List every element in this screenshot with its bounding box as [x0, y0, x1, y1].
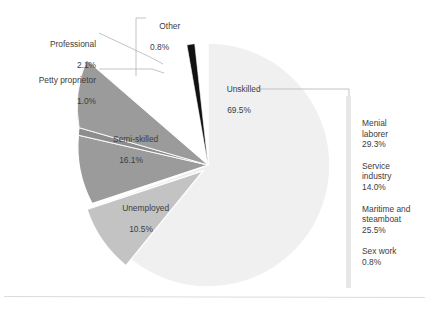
breakdown-item-maritime-and-steamboat: Maritime and steamboat 25.5%	[362, 204, 428, 236]
breakdown-item-sex-work: Sex work 0.8%	[362, 246, 428, 267]
slice-label-unemployed-name: Unemployed	[122, 203, 169, 213]
leader-line-other	[136, 18, 146, 76]
breakdown-item-pct: 14.0%	[362, 182, 428, 193]
slice-label-unskilled-pct: 69.5%	[203, 105, 275, 116]
unskilled-breakdown-list: Menial laborer 29.3% Service industry 14…	[362, 118, 428, 279]
slice-label-unskilled: Unskilled 69.5%	[203, 73, 275, 137]
slice-label-petty-proprietor-name: Petty proprietor	[39, 75, 96, 85]
breakdown-item-pct: 25.5%	[362, 225, 428, 236]
slice-label-other-pct: 0.8%	[150, 42, 180, 53]
bottom-rule	[4, 297, 425, 298]
breakdown-item-line1: Sex work	[362, 246, 428, 257]
breakdown-item-menial-laborer: Menial laborer 29.3%	[362, 118, 428, 150]
breakdown-item-line2: laborer	[362, 129, 428, 140]
breakdown-item-service-industry: Service industry 14.0%	[362, 161, 428, 193]
slice-label-semi-skilled-pct: 16.1%	[95, 155, 167, 166]
breakdown-item-line2: steamboat	[362, 214, 428, 225]
breakdown-item-line2: industry	[362, 171, 428, 182]
slice-label-semi-skilled-name: Semi-skilled	[113, 134, 158, 144]
breakdown-item-pct: 29.3%	[362, 139, 428, 150]
slice-label-petty-proprietor: Petty proprietor 1.0%	[6, 64, 96, 128]
breakdown-item-line1: Maritime and	[362, 204, 428, 215]
breakdown-item-line1: Service	[362, 161, 428, 172]
slice-label-unskilled-name: Unskilled	[227, 84, 261, 94]
breakdown-item-line1: Menial	[362, 118, 428, 129]
breakdown-bracket-bar	[346, 96, 351, 288]
pie-chart-figure: Other 0.8% Professional 2.1% Petty propr…	[0, 0, 429, 311]
slice-label-semi-skilled: Semi-skilled 16.1%	[95, 123, 167, 187]
breakdown-item-pct: 0.8%	[362, 257, 428, 268]
slice-label-petty-proprietor-pct: 1.0%	[6, 96, 96, 107]
slice-label-other: Other 0.8%	[150, 10, 180, 74]
slice-label-unemployed-pct: 10.5%	[104, 224, 178, 235]
slice-label-other-name: Other	[159, 21, 180, 31]
slice-label-unemployed: Unemployed 10.5%	[104, 192, 178, 256]
slice-label-professional-name: Professional	[50, 39, 96, 49]
